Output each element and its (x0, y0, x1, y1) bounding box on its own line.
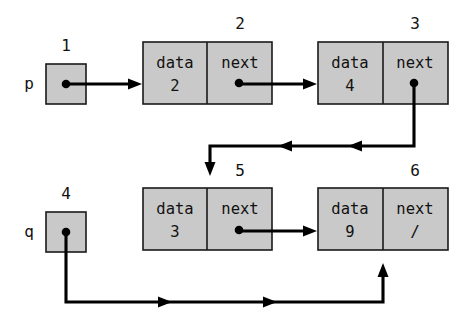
list-node-6-address: 6 (410, 161, 420, 180)
list-node-6-data-header: data (331, 200, 368, 218)
arrowhead-left (278, 141, 292, 152)
arrowhead-right (303, 79, 317, 90)
list-node-3-next-header: next (396, 54, 433, 72)
list-node-3-data-value: 4 (345, 77, 354, 95)
pointer-var-q: q 4 (24, 184, 86, 253)
list-node-5-next-header: next (221, 200, 258, 218)
arrowhead-right (158, 297, 172, 308)
list-node-2-next-header: next (221, 54, 258, 72)
list-node-2-address: 2 (235, 14, 245, 33)
list-node-5: 5 data next 3 (143, 161, 272, 251)
pointer-var-p-address: 1 (61, 36, 71, 55)
pointer-var-q-address: 4 (61, 184, 71, 203)
list-node-3: 3 data next 4 (318, 14, 448, 105)
diagram-canvas: p 1 2 data next 2 3 (0, 0, 473, 323)
pointer-var-p: p 1 (24, 36, 86, 105)
arrowhead-left (348, 141, 362, 152)
list-node-5-data-value: 3 (170, 223, 179, 241)
list-node-2: 2 data next 2 (143, 14, 272, 105)
list-node-5-data-header: data (156, 200, 193, 218)
list-node-6-data-value: 9 (345, 223, 354, 241)
linked-list-diagram: p 1 2 data next 2 3 (0, 0, 473, 323)
list-node-5-address: 5 (235, 161, 245, 180)
list-node-6: 6 data next 9 / (318, 161, 448, 251)
arrowhead-right (303, 226, 317, 237)
list-node-2-data-value: 2 (170, 77, 179, 95)
arrowhead-down (205, 162, 216, 176)
list-node-2-data-header: data (156, 54, 193, 72)
list-node-6-null-marker: / (410, 222, 420, 241)
arrowhead-right (128, 79, 142, 90)
pointer-var-q-label: q (24, 222, 34, 241)
arrowhead-up (378, 263, 389, 277)
arrowhead-right (263, 297, 277, 308)
pointer-var-p-label: p (24, 74, 34, 93)
list-node-6-next-header: next (396, 200, 433, 218)
list-node-3-data-header: data (331, 54, 368, 72)
list-node-3-address: 3 (410, 14, 420, 33)
